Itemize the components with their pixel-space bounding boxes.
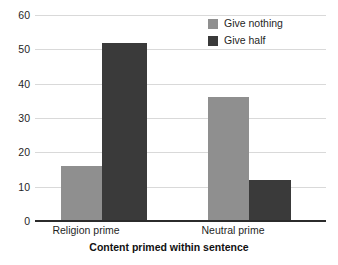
bar-religion-prime-give-half [102, 43, 147, 222]
legend-item-give-nothing: Give nothing [208, 16, 283, 31]
legend-label-give-half: Give half [224, 35, 265, 46]
y-tick-label-60: 60 [4, 10, 30, 20]
y-axis-tick-labels: 60 50 40 30 20 10 0 [0, 15, 30, 221]
x-axis-line [35, 220, 326, 222]
y-tick-label-30: 30 [4, 113, 30, 123]
y-tick-label-50: 50 [4, 44, 30, 54]
legend-item-give-half: Give half [208, 33, 283, 48]
legend-swatch-give-half [208, 36, 218, 46]
bar-chart: 60 50 40 30 20 10 0 Religion prime Neutr… [0, 0, 338, 265]
legend-label-give-nothing: Give nothing [224, 18, 283, 29]
bar-neutral-prime-give-nothing [208, 97, 249, 221]
y-tick-label-40: 40 [4, 79, 30, 89]
y-tick-label-20: 20 [4, 147, 30, 157]
bar-religion-prime-give-nothing [61, 166, 102, 221]
x-tick-label-religion-prime: Religion prime [26, 224, 146, 236]
gridline-40 [35, 84, 326, 85]
legend-swatch-give-nothing [208, 19, 218, 29]
x-tick-label-neutral-prime: Neutral prime [173, 224, 293, 236]
chart-legend: Give nothing Give half [208, 16, 283, 50]
x-axis-title: Content primed within sentence [0, 241, 338, 253]
y-tick-label-10: 10 [4, 182, 30, 192]
bar-neutral-prime-give-half [249, 180, 291, 221]
gridline-30 [35, 118, 326, 119]
gridline-20 [35, 152, 326, 153]
